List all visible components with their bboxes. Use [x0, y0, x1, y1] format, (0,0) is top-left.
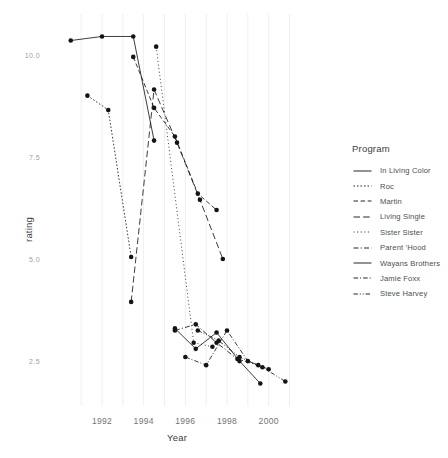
- legend-item-jamie-foxx[interactable]: Jamie Foxx: [352, 271, 448, 286]
- plot-frame: [52, 14, 302, 406]
- data-point: [131, 34, 136, 39]
- gridlines: [81, 14, 289, 406]
- series-line: [87, 96, 131, 257]
- data-point: [237, 355, 242, 360]
- x-tick-label: 2000: [259, 416, 279, 426]
- x-axis-title: Year: [52, 432, 302, 443]
- data-point: [68, 38, 73, 43]
- legend-swatch-icon: [352, 289, 373, 299]
- data-point: [193, 347, 198, 352]
- data-point: [216, 338, 221, 343]
- data-point: [183, 355, 188, 360]
- y-tick-label: 5.0: [0, 256, 40, 263]
- legend-swatch-icon: [352, 258, 373, 268]
- data-point: [193, 322, 198, 327]
- data-point: [258, 381, 263, 386]
- data-point: [196, 328, 201, 333]
- data-point: [204, 363, 209, 368]
- legend: Program In Living ColorRocMartinLiving S…: [352, 143, 448, 302]
- x-tick-label: 1994: [134, 416, 154, 426]
- x-tick-label: 1998: [217, 416, 237, 426]
- legend-item-label: Jamie Foxx: [380, 274, 420, 283]
- data-point: [175, 140, 180, 145]
- x-tick-label: 1992: [92, 416, 112, 426]
- legend-items: In Living ColorRocMartinLiving SingleSis…: [352, 163, 448, 302]
- series-line: [71, 36, 154, 140]
- y-tick-label: 10.0: [0, 51, 40, 58]
- legend-item-label: Parent 'Hood: [380, 243, 426, 252]
- legend-swatch-icon: [352, 227, 373, 237]
- series-line: [131, 90, 223, 302]
- data-point: [129, 300, 134, 305]
- data-point: [283, 379, 288, 384]
- data-point: [191, 340, 196, 345]
- legend-swatch-icon: [352, 166, 373, 176]
- data-point: [154, 44, 159, 49]
- data-point: [214, 330, 219, 335]
- legend-swatch-icon: [352, 196, 373, 206]
- data-point: [129, 255, 134, 260]
- data-point: [131, 55, 136, 60]
- data-point: [260, 365, 265, 370]
- series-line: [133, 57, 216, 210]
- legend-item-wayans-brothers[interactable]: Wayans Brothers: [352, 255, 448, 270]
- legend-item-parent-hood[interactable]: Parent 'Hood: [352, 240, 448, 255]
- legend-item-label: Roc: [380, 182, 394, 191]
- x-tick-label: 1996: [175, 416, 195, 426]
- legend-item-steve-harvey[interactable]: Steve Harvey: [352, 286, 448, 301]
- data-point: [214, 208, 219, 213]
- series-sister-sister: [154, 44, 215, 349]
- data-point: [85, 93, 90, 98]
- data-point: [100, 34, 105, 39]
- data-point: [225, 328, 230, 333]
- legend-item-roc[interactable]: Roc: [352, 178, 448, 193]
- plot-area: 2.55.07.510.0 19921994199619982000: [52, 14, 302, 406]
- data-point: [152, 87, 157, 92]
- series-steve-harvey: [196, 328, 288, 384]
- chart-canvas: [52, 14, 302, 406]
- data-point: [210, 344, 215, 349]
- series-layer: [68, 34, 287, 386]
- legend-swatch-icon: [352, 243, 373, 253]
- data-point: [106, 108, 111, 113]
- series-roc: [85, 93, 133, 259]
- y-axis-title: rating: [23, 200, 34, 260]
- data-point: [198, 197, 203, 202]
- data-point: [152, 138, 157, 143]
- legend-item-label: Martin: [380, 197, 402, 206]
- chart-root: 2.55.07.510.0 19921994199619982000 Year …: [0, 0, 448, 458]
- legend-item-label: Living Single: [380, 212, 425, 221]
- data-point: [246, 359, 251, 364]
- legend-item-label: In Living Color: [380, 166, 431, 175]
- legend-item-sister-sister[interactable]: Sister Sister: [352, 225, 448, 240]
- legend-item-living-single[interactable]: Living Single: [352, 209, 448, 224]
- legend-swatch-icon: [352, 181, 373, 191]
- data-point: [173, 326, 178, 331]
- data-point: [221, 257, 226, 262]
- y-tick-label: 2.5: [0, 358, 40, 365]
- data-point: [237, 359, 242, 364]
- legend-item-label: Sister Sister: [380, 228, 423, 237]
- legend-item-martin[interactable]: Martin: [352, 194, 448, 209]
- legend-item-in-living-color[interactable]: In Living Color: [352, 163, 448, 178]
- legend-swatch-icon: [352, 273, 373, 283]
- legend-item-label: Steve Harvey: [380, 289, 427, 298]
- legend-title: Program: [352, 143, 448, 154]
- y-tick-label: 7.5: [0, 153, 40, 160]
- legend-item-label: Wayans Brothers: [380, 259, 440, 268]
- legend-swatch-icon: [352, 212, 373, 222]
